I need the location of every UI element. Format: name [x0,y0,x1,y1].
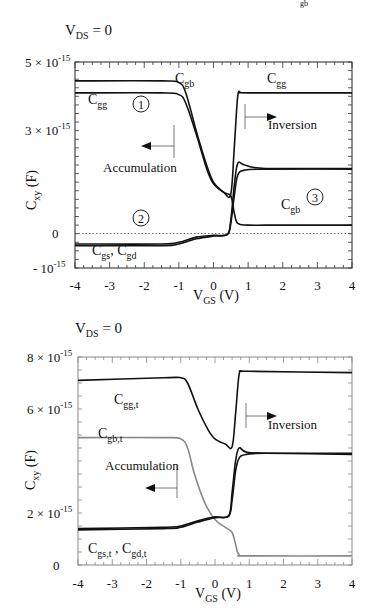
x-tick-label: 2 [280,278,287,293]
label-cgg-right: Cgg [267,71,286,89]
bottom-chart: VDS = 0 8 × 10-15 6 × 10-15 2 × 10-15 0 … [23,320,356,604]
top-ytick-0: 0 [52,226,59,241]
series-c-gb-t [78,438,352,556]
top-y-axis-label: Cxy (F) [24,170,42,210]
svg-text:3: 3 [312,191,318,205]
top-ytick-5e-15: 5 × 10-15 [25,53,71,70]
region-marker-2: 2 [133,210,149,226]
x-tick-label: 3 [314,278,321,293]
x-tick-label: -4 [73,576,84,591]
region-marker-1: 1 [133,96,149,112]
bottom-ytick-0: 0 [53,558,60,573]
x-tick-label: -1 [175,576,186,591]
svg-text:1: 1 [138,98,144,112]
top-chart-title: VDS = 0 [65,22,112,41]
series-c-gd [75,169,352,246]
top-x-axis-label: VGS (V) [193,288,239,306]
top-y-tick-labels: 5 × 10-15 3 × 10-15 0 - 10-15 [25,53,71,276]
x-tick-label: 4 [349,576,356,591]
x-tick-label: 2 [280,576,287,591]
label-cgb-right: Cgb [281,197,300,215]
figure: gb VDS = 0 5 × 10-15 3 × 10-15 0 - 10-15… [0,0,373,615]
x-tick-label: 4 [349,278,356,293]
top-ytick-neg1e-15: - 10-15 [33,259,66,276]
bottom-x-tick-labels: -4-3-2-101234 [73,576,356,591]
top-chart: VDS = 0 5 × 10-15 3 × 10-15 0 - 10-15 Cx… [24,22,356,306]
bottom-ytick-2e-15: 2 × 10-15 [27,504,73,521]
x-tick-label: -1 [173,278,184,293]
x-tick-label: -2 [141,576,152,591]
label-cgbt: Cgb,t [98,426,123,444]
label-cgst-cgdt: Cgs,t , Cgd,t [88,541,147,559]
bottom-chart-title: VDS = 0 [75,320,122,339]
svg-text:2: 2 [138,212,144,226]
x-tick-label: -3 [107,576,118,591]
corner-mark: gb [300,0,308,8]
bottom-y-axis-label: Cxy (F) [23,450,41,490]
bottom-x-axis-label: VGS (V) [195,586,241,604]
top-x-tick-labels: -4-3-2-101234 [70,278,356,293]
bottom-ytick-8e-15: 8 × 10-15 [27,348,73,365]
x-tick-label: 1 [246,576,253,591]
bottom-ytick-6e-15: 6 × 10-15 [27,400,73,417]
accumulation-arrow [141,125,174,158]
label-inversion-bottom: Inversion [268,417,318,432]
label-accumulation-top: Accumulation [103,160,177,175]
x-tick-label: 3 [315,576,322,591]
x-tick-label: -4 [70,278,81,293]
label-cggt: Cgg,t [114,392,139,410]
x-tick-label: -2 [139,278,150,293]
region-marker-3: 3 [307,189,323,205]
x-tick-label: -3 [104,278,115,293]
x-tick-label: 1 [245,278,252,293]
label-cgb-top: Cgb [175,71,194,89]
label-cgg-left: Cgg [88,92,107,110]
label-inversion-top: Inversion [268,117,318,132]
label-accumulation-bottom: Accumulation [105,458,179,473]
top-ytick-3e-15: 3 × 10-15 [25,121,71,138]
